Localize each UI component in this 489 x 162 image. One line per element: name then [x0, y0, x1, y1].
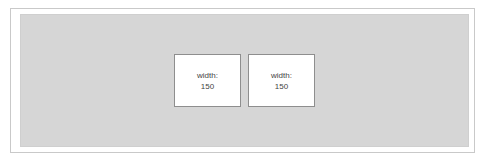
flex-item-1: width: 150	[174, 54, 241, 107]
box-label: width:	[197, 70, 218, 81]
flex-container: width: 150 width: 150	[20, 14, 469, 147]
box-value: 150	[201, 81, 214, 92]
box-label: width:	[271, 70, 292, 81]
outer-frame: width: 150 width: 150	[10, 8, 475, 153]
flex-item-2: width: 150	[248, 54, 315, 107]
box-value: 150	[275, 81, 288, 92]
